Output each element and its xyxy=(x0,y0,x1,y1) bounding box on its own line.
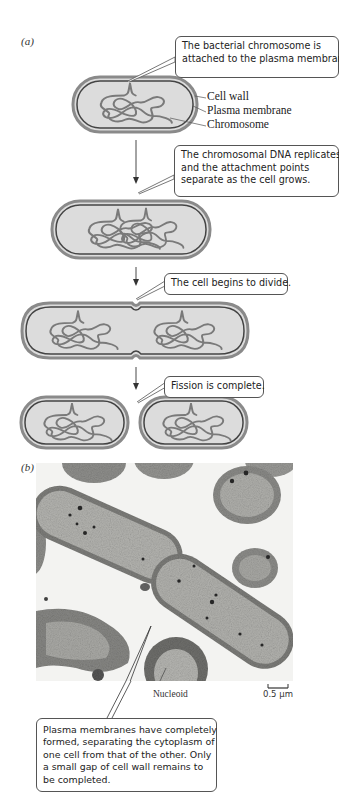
callout-line: separate as the cell grows. xyxy=(181,174,332,187)
label-cell-wall: Cell wall xyxy=(207,90,249,102)
callout-line: The bacterial chromosome is xyxy=(182,40,332,53)
callout-line: Plasma membranes have completely xyxy=(43,724,210,736)
callout-line: one cell from that of the other. Only xyxy=(43,749,210,761)
cell-step-4-left xyxy=(21,397,128,448)
cell-step-4-right xyxy=(140,397,247,448)
callout-step-1: The bacterial chromosome is attached to … xyxy=(175,36,339,78)
callout-line: formed, separating the cytoplasm of xyxy=(43,736,210,748)
callout-micrograph: Plasma membranes have completely formed,… xyxy=(36,718,217,792)
callout-step-4: Fission is complete. xyxy=(164,376,264,398)
callout-step-2: The chromosomal DNA replicates, and the … xyxy=(174,145,339,197)
cell-step-3 xyxy=(22,303,248,358)
label-plasma-membrane: Plasma membrane xyxy=(207,104,292,116)
panel-b-label: (b) xyxy=(21,461,34,473)
callout-line: and the attachment points xyxy=(181,162,332,175)
callout-line: Fission is complete. xyxy=(171,380,257,393)
cell-step-1 xyxy=(73,77,197,132)
electron-micrograph xyxy=(36,463,293,681)
label-nucleoid: Nucleoid xyxy=(153,689,188,699)
callout-line: The cell begins to divide. xyxy=(171,277,281,290)
callout-step-3: The cell begins to divide. xyxy=(164,273,288,295)
callout-line: a small gap of cell wall remains to xyxy=(43,761,210,773)
cell-step-2 xyxy=(52,201,210,258)
label-chromosome: Chromosome xyxy=(207,118,269,130)
callout-line: attached to the plasma membrane. xyxy=(182,53,332,66)
callout-line: be completed. xyxy=(43,774,210,786)
scale-bar-label: 0.5 μm xyxy=(263,689,293,699)
callout-line: The chromosomal DNA replicates, xyxy=(181,149,332,162)
